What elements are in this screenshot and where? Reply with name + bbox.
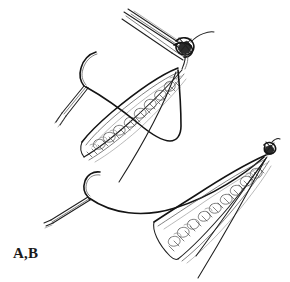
suture-tails-lower — [196, 158, 266, 278]
suture-loop-upper — [86, 70, 181, 141]
needle-holder-icon — [122, 9, 186, 60]
needle-holder-upper-left — [55, 86, 88, 127]
adipose-tissue-upper — [90, 77, 177, 149]
panel-label: A,B — [13, 246, 38, 261]
open-wound-upper — [81, 68, 186, 162]
adipose-tissue-lower — [168, 168, 262, 246]
needle-holder-lower-left — [44, 197, 90, 228]
surgical-illustration — [0, 0, 290, 282]
curved-needle-lower — [84, 172, 100, 197]
figure-root: A,B — [0, 0, 290, 282]
suture-knot-upper — [174, 32, 214, 69]
curved-needle-upper — [80, 52, 97, 86]
suture-knot-lower — [264, 139, 280, 155]
